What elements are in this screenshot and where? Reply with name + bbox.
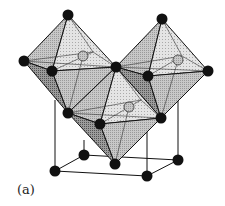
atom: [19, 56, 30, 67]
atom: [142, 171, 153, 182]
atom: [157, 14, 168, 25]
atom: [79, 150, 90, 161]
atom: [173, 155, 184, 166]
atom: [110, 159, 121, 170]
center-atom: [173, 55, 183, 65]
atom: [203, 66, 214, 77]
atom: [156, 113, 167, 124]
atom: [95, 119, 106, 130]
atom: [143, 71, 154, 82]
panel-label: (a): [17, 182, 35, 197]
atom: [63, 10, 74, 21]
atom: [111, 62, 122, 73]
center-atom: [124, 102, 134, 112]
atom: [63, 108, 74, 119]
atom: [50, 166, 61, 177]
atom: [47, 66, 58, 77]
center-atom: [78, 51, 88, 61]
octahedra-diagram: [0, 0, 225, 206]
